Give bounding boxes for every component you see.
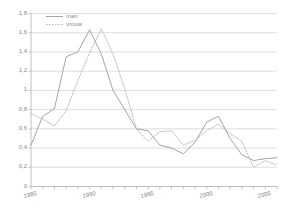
y-tick-label: 1,4 [5, 48, 27, 54]
series-line-vrouw [31, 29, 277, 167]
legend-item-man: man [66, 13, 78, 19]
data-series-layer [31, 29, 277, 167]
y-tick-label: 1 [5, 86, 27, 92]
y-tick-label: 1,8 [5, 10, 27, 16]
line-chart: 00,20,40,60,811,21,41,61,8 1985199019952… [0, 0, 285, 218]
y-tick-label: 0 [5, 183, 27, 189]
y-tick-label: 0,6 [5, 125, 27, 131]
series-line-man [31, 30, 277, 161]
chart-canvas [0, 0, 285, 218]
y-tick-label: 1,6 [5, 29, 27, 35]
x-axis-tick-marks [31, 187, 277, 190]
legend-item-vrouw: vrouw [66, 21, 82, 27]
y-tick-label: 0,4 [5, 144, 27, 150]
legend-swatches [46, 17, 63, 25]
y-tick-label: 0,8 [5, 106, 27, 112]
y-tick-label: 0,2 [5, 163, 27, 169]
axes [31, 14, 277, 187]
gridlines [31, 14, 277, 168]
y-tick-label: 1,2 [5, 67, 27, 73]
